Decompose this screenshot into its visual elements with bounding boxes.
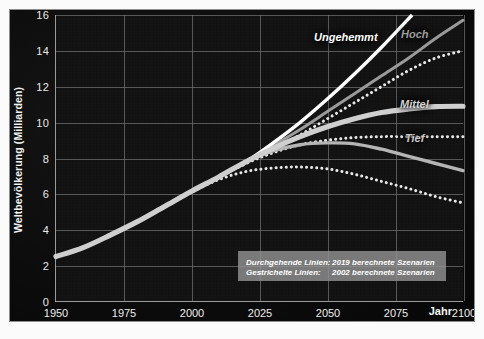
- chart-figure: Weltbevölkerung (Milliarden) Jahr Ungehe…: [9, 9, 475, 322]
- x-axis-tick-2000: 2000: [180, 307, 204, 319]
- x-axis-tick-2075: 2075: [384, 307, 408, 319]
- legend-row: Gestrichelte Linien:2002 berechnete Szen…: [246, 268, 438, 278]
- legend-box: Durchgehende Linien:2019 berechnete Szen…: [238, 251, 446, 281]
- y-axis-tick-14: 14: [36, 45, 49, 57]
- legend-key: Gestrichelte Linien:: [246, 268, 332, 278]
- y-axis-tick-12: 12: [36, 81, 49, 93]
- y-axis-tick-6: 6: [43, 188, 49, 200]
- x-axis-tick-2050: 2050: [316, 307, 340, 319]
- x-axis-label: Jahr: [429, 305, 452, 317]
- y-axis-tick-16: 16: [36, 9, 49, 21]
- curve-ungehemmt-2019-extension: [409, 15, 412, 19]
- y-axis-tick-4: 4: [43, 224, 49, 236]
- x-axis-tick-2100: 2100: [452, 307, 475, 319]
- y-axis-tick-8: 8: [43, 153, 49, 165]
- legend-value: 2019 berechnete Szenarien: [332, 258, 435, 268]
- legend-key: Durchgehende Linien:: [246, 258, 332, 268]
- y-axis-tick-2: 2: [43, 260, 49, 272]
- legend-row: Durchgehende Linien:2019 berechnete Szen…: [246, 258, 438, 268]
- curve-tief-2019: [56, 143, 463, 257]
- gridline-vertical: [464, 15, 465, 301]
- y-axis-label: Weltbevölkerung (Milliarden): [12, 87, 24, 233]
- chart-page: Weltbevölkerung (Milliarden) Jahr Ungehe…: [0, 0, 484, 339]
- x-axis-tick-1975: 1975: [112, 307, 136, 319]
- curve-hoch-2019: [56, 20, 463, 256]
- curve-tief-2002: [56, 167, 463, 257]
- x-axis-tick-1950: 1950: [44, 307, 68, 319]
- y-axis-tick-10: 10: [36, 117, 49, 129]
- curve-mittel-2019: [56, 106, 463, 256]
- x-axis-tick-2025: 2025: [248, 307, 272, 319]
- legend-value: 2002 berechnete Szenarien: [332, 268, 435, 278]
